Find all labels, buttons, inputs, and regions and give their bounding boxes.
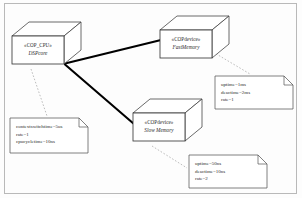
node-fastmemory-front-face: [160, 30, 212, 58]
association-cpu-slowmemory[interactable]: [65, 65, 134, 125]
note-anchor-fastmem: [213, 52, 250, 74]
note-cpu[interactable]: [10, 118, 88, 153]
note-slowmemory[interactable]: [189, 155, 267, 188]
diagram-shapes: [0, 0, 302, 198]
node-cpu[interactable]: [12, 22, 81, 64]
node-slowmemory[interactable]: [133, 99, 202, 141]
note-slowmemory-body: [189, 155, 267, 188]
note-fastmemory-body: [215, 76, 293, 109]
node-cpu-front-face: [12, 36, 64, 64]
diagram-canvas: «COP_CPU» DSPcore «COPdevice» FastMemory…: [0, 0, 302, 198]
node-fastmemory[interactable]: [160, 16, 229, 58]
note-anchor-slowmem: [152, 146, 187, 168]
note-fastmemory[interactable]: [215, 76, 293, 109]
node-slowmemory-front-face: [133, 113, 185, 141]
note-cpu-body: [10, 118, 88, 153]
note-anchor-cpu: [31, 69, 47, 116]
